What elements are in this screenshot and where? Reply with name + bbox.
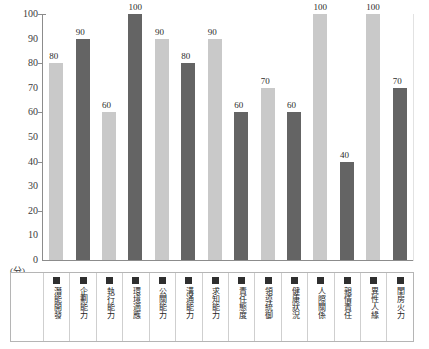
bar-value-label: 90	[76, 28, 85, 37]
bar-slot: 80	[175, 14, 201, 260]
y-tick-label: 40	[8, 157, 38, 167]
bar-value-label: 100	[366, 3, 380, 12]
category-label-text: 健康狀況	[290, 287, 299, 319]
legend-swatch-icon	[291, 277, 298, 284]
y-tick-mark	[38, 162, 43, 163]
category-legend-table: 潛能開發企劃能力執行能力環境適應公關能力溝通能力求知能力責任態度領導統御健康狀況…	[10, 272, 414, 342]
category-label-text: 企劃能力	[79, 287, 88, 319]
y-tick-label: 10	[8, 230, 38, 240]
y-tick-label: 60	[8, 107, 38, 117]
bar	[393, 88, 407, 260]
category-label-text: 溝通能力	[184, 287, 193, 319]
legend-swatch-icon	[397, 277, 404, 284]
bar-slot: 100	[307, 14, 333, 260]
category-label-text: 潛能開發	[52, 287, 61, 319]
category-label-cell: 公關能力	[150, 273, 176, 341]
bar-slot: 60	[96, 14, 122, 260]
bar-slot: 90	[149, 14, 175, 260]
category-label-text: 公關能力	[158, 287, 167, 319]
bar	[313, 14, 327, 260]
category-label-cell: 親情責任	[335, 273, 361, 341]
bar-slot: 90	[202, 14, 228, 260]
bar	[49, 63, 63, 260]
bar-slot: 60	[281, 14, 307, 260]
legend-swatch-icon	[212, 277, 219, 284]
y-tick-mark	[38, 14, 43, 15]
plot-area: 1009080706050403020100 (分) 8090601009080…	[0, 0, 429, 268]
category-label-cell: 潛能開發	[44, 273, 70, 341]
category-label-text: 閨房火力	[396, 287, 405, 319]
x-axis-line	[42, 260, 414, 261]
category-label-cell: 人際關係	[308, 273, 334, 341]
legend-swatch-icon	[106, 277, 113, 284]
category-label-text: 責任態度	[237, 287, 246, 319]
bar-value-label: 60	[287, 101, 296, 110]
bar-value-label: 60	[102, 101, 111, 110]
bar	[208, 39, 222, 260]
bar-value-label: 40	[340, 151, 349, 160]
bar-value-label: 100	[128, 3, 142, 12]
bar	[155, 39, 169, 260]
legend-swatch-icon	[370, 277, 377, 284]
legend-swatch-icon	[265, 277, 272, 284]
bar	[128, 14, 142, 260]
legend-swatch-icon	[317, 277, 324, 284]
category-label-cell: 領導統御	[255, 273, 281, 341]
y-tick-label: 80	[8, 58, 38, 68]
bar-value-label: 90	[155, 28, 164, 37]
category-label-text: 異性人緣	[369, 287, 378, 319]
bar-value-label: 100	[313, 3, 327, 12]
bar-value-label: 90	[208, 28, 217, 37]
category-label-cell: 健康狀況	[282, 273, 308, 341]
bar-slot: 70	[387, 14, 413, 260]
bar-slot: 100	[122, 14, 148, 260]
bar-value-label: 70	[393, 77, 402, 86]
bar	[366, 14, 380, 260]
y-tick-label: 70	[8, 83, 38, 93]
category-label-cell: 求知能力	[203, 273, 229, 341]
bar	[287, 112, 301, 260]
category-label-cell: 異性人緣	[361, 273, 387, 341]
legend-swatch-icon	[238, 277, 245, 284]
category-label-text: 執行能力	[105, 287, 114, 319]
category-label-cell: 責任態度	[229, 273, 255, 341]
y-tick-label: 90	[8, 34, 38, 44]
bars-container: 8090601009080906070601004010070	[43, 14, 413, 260]
category-label-text: 環境適應	[131, 287, 140, 319]
bar	[261, 88, 275, 260]
legend-swatch-icon	[159, 277, 166, 284]
legend-swatch-icon	[53, 277, 60, 284]
bar-slot: 40	[334, 14, 360, 260]
legend-table-spacer	[11, 273, 44, 341]
y-axis-tick-labels: 1009080706050403020100	[8, 14, 38, 260]
y-tick-mark	[38, 211, 43, 212]
category-label-text: 求知能力	[211, 287, 220, 319]
bar-slot: 90	[69, 14, 95, 260]
y-tick-mark	[38, 63, 43, 64]
bar-value-label: 60	[234, 101, 243, 110]
legend-swatch-icon	[344, 277, 351, 284]
y-tick-mark	[38, 112, 43, 113]
bar-slot: 80	[43, 14, 69, 260]
y-tick-label: 30	[8, 181, 38, 191]
category-label-cell: 閨房火力	[387, 273, 412, 341]
y-tick-label: 100	[8, 9, 38, 19]
legend-swatch-icon	[132, 277, 139, 284]
category-label-cell: 溝通能力	[176, 273, 202, 341]
bar	[76, 39, 90, 260]
plot-right-border	[413, 14, 414, 261]
bar	[102, 112, 116, 260]
y-tick-label: 50	[8, 132, 38, 142]
category-label-cell: 企劃能力	[70, 273, 96, 341]
bar-slot: 60	[228, 14, 254, 260]
legend-swatch-icon	[185, 277, 192, 284]
category-label-text: 領導統御	[264, 287, 273, 319]
bar-value-label: 80	[181, 52, 190, 61]
category-label-text: 人際關係	[316, 287, 325, 319]
y-tick-label: 20	[8, 206, 38, 216]
bar-slot: 70	[254, 14, 280, 260]
bar	[181, 63, 195, 260]
bar-slot: 100	[360, 14, 386, 260]
category-label-cell: 環境適應	[123, 273, 149, 341]
category-label-cell: 執行能力	[97, 273, 123, 341]
